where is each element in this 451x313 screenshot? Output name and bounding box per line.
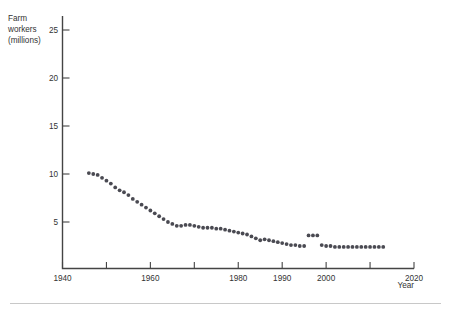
data-point	[241, 232, 245, 236]
data-point	[87, 171, 91, 175]
data-point	[324, 244, 328, 248]
data-series-farm-workers	[87, 171, 385, 249]
data-point	[206, 226, 210, 230]
data-point	[289, 243, 293, 247]
data-point	[127, 193, 131, 197]
data-point	[100, 176, 104, 180]
y-axis-ticks	[63, 30, 70, 222]
x-axis-tick-labels: 194019601980199020002020	[53, 274, 423, 283]
axis-lines	[63, 16, 415, 269]
y-axis-label-line-1: Farm	[8, 14, 27, 23]
data-point	[355, 245, 359, 249]
data-point	[214, 227, 218, 231]
data-point	[228, 229, 232, 233]
data-point	[105, 179, 109, 183]
data-point	[320, 243, 324, 247]
x-tick-label-1960: 1960	[141, 274, 160, 283]
chart-figure: Farm workers (millions) 5 10 15 20 25 19…	[0, 0, 451, 313]
y-axis-label-line-2: workers	[7, 25, 37, 34]
x-tick-label-1990: 1990	[273, 274, 292, 283]
data-point	[162, 217, 166, 221]
data-point	[272, 239, 276, 243]
data-point	[276, 240, 280, 244]
y-axis-tick-labels: 5 10 15 20 25	[49, 26, 59, 227]
data-point	[245, 233, 249, 237]
data-point	[109, 182, 113, 186]
data-point	[197, 225, 201, 229]
data-point	[201, 226, 205, 230]
data-point	[373, 245, 377, 249]
data-point	[223, 228, 227, 232]
data-point	[192, 224, 196, 228]
data-point	[153, 211, 157, 215]
x-axis-ticks	[63, 262, 415, 269]
data-point	[359, 245, 363, 249]
data-point	[333, 245, 337, 249]
y-tick-label-10: 10	[49, 170, 59, 179]
data-point	[157, 214, 161, 218]
y-tick-label-25: 25	[49, 26, 59, 35]
data-point	[342, 245, 346, 249]
y-tick-label-20: 20	[49, 74, 59, 83]
data-point	[315, 234, 319, 238]
data-point	[96, 173, 100, 177]
data-point	[250, 235, 254, 239]
data-point	[184, 223, 188, 227]
y-axis-label-line-3: (millions)	[8, 36, 41, 45]
data-point	[337, 245, 341, 249]
data-point	[280, 241, 284, 245]
data-point	[188, 223, 192, 227]
data-point	[131, 197, 135, 201]
x-axis-label: Year	[397, 281, 414, 290]
data-point	[311, 234, 315, 238]
data-point	[263, 237, 267, 241]
data-point	[285, 242, 289, 246]
data-point	[368, 245, 372, 249]
data-point	[298, 244, 302, 248]
x-tick-label-1940: 1940	[53, 274, 72, 283]
data-point	[179, 224, 183, 228]
data-point	[232, 230, 236, 234]
farm-workers-scatter-chart: Farm workers (millions) 5 10 15 20 25 19…	[0, 0, 451, 313]
data-point	[166, 220, 170, 224]
data-point	[364, 245, 368, 249]
y-tick-label-5: 5	[53, 218, 58, 227]
data-point	[293, 243, 297, 247]
data-point	[210, 226, 214, 230]
data-point	[122, 190, 126, 194]
data-point	[267, 238, 271, 242]
data-point	[258, 238, 262, 242]
data-point	[175, 224, 179, 228]
data-point	[346, 245, 350, 249]
data-point	[148, 209, 152, 213]
x-tick-label-1980: 1980	[229, 274, 248, 283]
data-point	[170, 222, 174, 226]
data-point	[254, 236, 258, 240]
data-point	[236, 231, 240, 235]
data-point	[381, 245, 385, 249]
data-point	[219, 227, 223, 231]
data-point	[135, 200, 139, 204]
data-point	[329, 244, 333, 248]
data-point	[144, 206, 148, 210]
data-point	[140, 203, 144, 207]
y-tick-label-15: 15	[49, 122, 59, 131]
data-point	[113, 186, 117, 190]
data-point	[307, 234, 311, 238]
data-point	[351, 245, 355, 249]
data-point	[302, 244, 306, 248]
data-point	[377, 245, 381, 249]
data-point	[118, 188, 122, 192]
x-tick-label-2000: 2000	[317, 274, 336, 283]
data-point	[91, 172, 95, 176]
